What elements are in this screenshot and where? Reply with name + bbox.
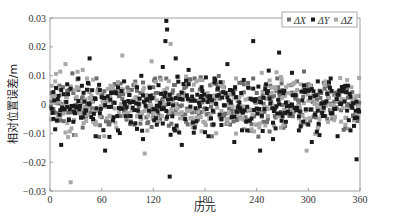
x-tick-label: 120 <box>146 194 161 205</box>
x-tick-label: 240 <box>249 194 264 205</box>
scatter-chart: −0.03−0.02−0.0100.010.020.03 06012018024… <box>0 0 394 219</box>
y-tick-label: −0.02 <box>23 157 46 168</box>
svg-text:ΔX: ΔX <box>293 15 307 26</box>
x-tick-label: 0 <box>48 194 53 205</box>
y-tick-label: −0.03 <box>23 186 46 197</box>
legend: ΔXΔYΔZ <box>282 12 357 27</box>
x-tick-label: 360 <box>353 194 368 205</box>
svg-text:ΔY: ΔY <box>317 15 331 26</box>
y-tick-label: 0.01 <box>29 70 47 81</box>
y-axis-ticks: −0.03−0.02−0.0100.010.020.03 <box>23 13 53 197</box>
svg-text:ΔZ: ΔZ <box>340 15 353 26</box>
legend-marker-icon <box>287 18 291 22</box>
y-tick-label: 0.02 <box>29 41 47 52</box>
legend-marker-icon <box>311 18 315 22</box>
y-tick-label: −0.01 <box>23 128 46 139</box>
x-axis-title: 历元 <box>194 201 216 214</box>
y-tick-label: 0.03 <box>29 13 47 24</box>
y-tick-label: 0 <box>41 99 46 110</box>
legend-marker-icon <box>334 18 338 22</box>
x-tick-label: 300 <box>301 194 316 205</box>
y-axis-title: 相对位置误差/m <box>6 64 20 144</box>
x-tick-label: 60 <box>97 194 107 205</box>
